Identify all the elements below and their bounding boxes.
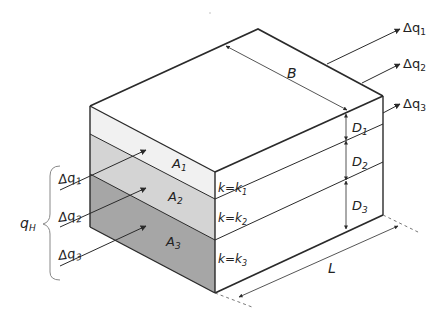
dimension-b-label: B xyxy=(287,65,297,81)
inflow-label-2: Δq2 xyxy=(56,207,82,227)
speck xyxy=(209,12,211,14)
dimension-l-label: L xyxy=(328,260,336,276)
aquifer-diagram: B L D1 D2 D3 A1 A2 A3 k=k1 k=k2 k=k3 Δq1… xyxy=(0,0,446,324)
outflow-label-2: Δq2 xyxy=(403,56,426,73)
total-flow-brace xyxy=(43,166,60,280)
outflow-label-1: Δq1 xyxy=(403,20,426,37)
total-flow-label: qH xyxy=(20,215,36,233)
outflow-label-3: Δq3 xyxy=(403,96,426,113)
